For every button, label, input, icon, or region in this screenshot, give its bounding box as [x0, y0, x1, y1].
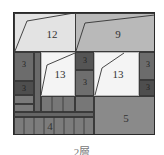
room-label-3-right-bottom: 3 [142, 84, 154, 92]
room-label-4: 4 [44, 121, 56, 132]
room-label-3-mid-top: 3 [79, 57, 91, 65]
room-label-9: 9 [108, 29, 128, 40]
room-label-3-left-top: 3 [18, 61, 30, 69]
room-label-3-mid-bottom: 3 [79, 79, 91, 87]
room-label-5: 5 [118, 113, 134, 124]
room-label-12: 12 [42, 29, 62, 40]
floor-caption: 2層 [0, 143, 164, 155]
floor-plan: 12 9 13 13 3 3 3 3 3 3 4 5 [13, 12, 155, 135]
room-label-13-right: 13 [106, 69, 130, 80]
room-label-13-left: 13 [48, 69, 72, 80]
room-label-3-right-top: 3 [142, 61, 154, 69]
room-label-3-left-bottom: 3 [18, 85, 30, 93]
